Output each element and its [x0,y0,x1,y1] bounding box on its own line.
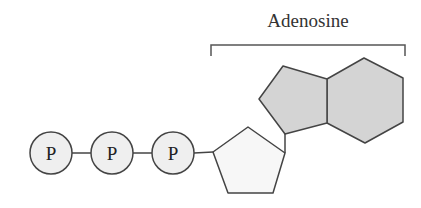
adenosine-label: Adenosine [267,10,348,31]
adenine-six-ring [327,58,403,143]
adenine-five-ring [259,66,327,134]
ribose-sugar [213,127,285,193]
phosphate-label: P [168,143,179,164]
phosphate-group-3: P [152,132,194,174]
phosphate-label: P [107,143,118,164]
atp-diagram: Adenosine P P P [0,0,421,208]
adenosine-bracket [211,45,405,56]
phosphate-group-1: P [30,132,72,174]
phosphate-label: P [46,143,57,164]
phosphate-group-2: P [91,132,133,174]
